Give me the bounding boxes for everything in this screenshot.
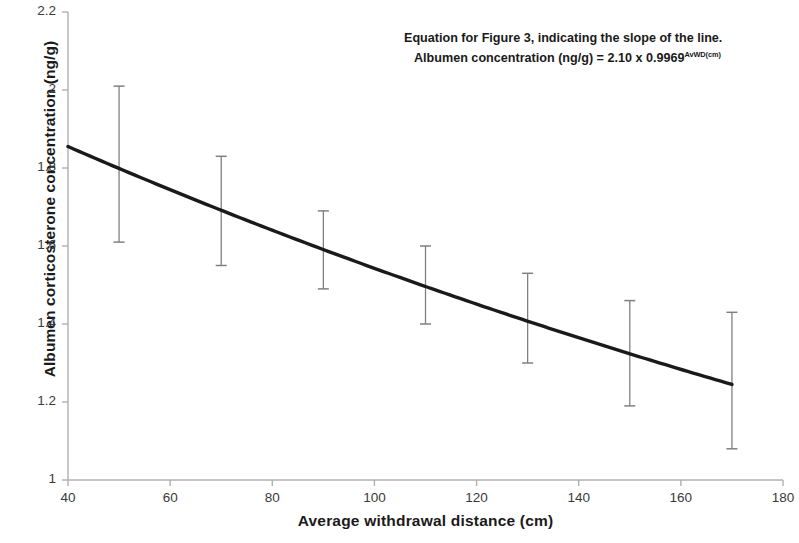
- x-tick-label: 100: [349, 490, 399, 505]
- x-tick-label: 180: [758, 490, 799, 505]
- x-tick-label: 40: [43, 490, 93, 505]
- x-tick-label: 120: [452, 490, 502, 505]
- y-tick-label: 1.6: [16, 237, 56, 252]
- fitted-line: [68, 147, 732, 385]
- y-tick-label: 2: [16, 81, 56, 96]
- y-tick-label: 1.2: [16, 393, 56, 408]
- x-tick-label: 140: [554, 490, 604, 505]
- y-tick-label: 1.8: [16, 159, 56, 174]
- y-tick-label: 2.2: [16, 3, 56, 18]
- error-bar: [114, 86, 125, 242]
- x-tick-label: 160: [656, 490, 706, 505]
- x-tick-label: 60: [145, 490, 195, 505]
- error-bar: [726, 312, 737, 449]
- x-tick-label: 80: [247, 490, 297, 505]
- y-tick-label: 1.4: [16, 315, 56, 330]
- y-tick-label: 1: [16, 471, 56, 486]
